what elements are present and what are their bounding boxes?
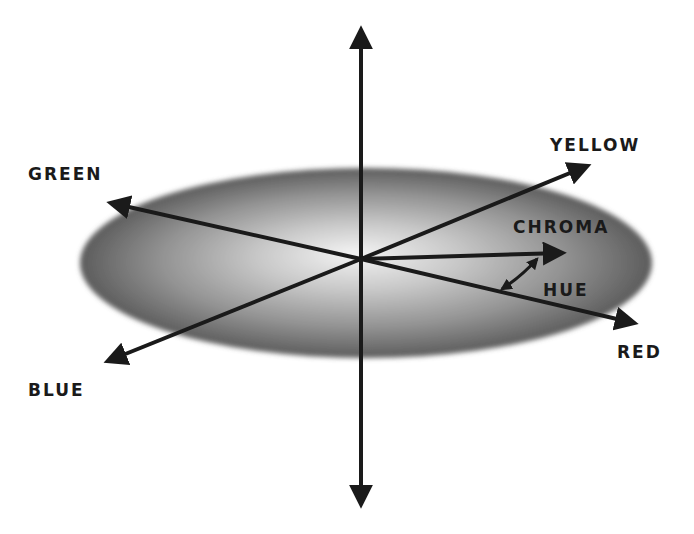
color-space-diagram: GREEN YELLOW CHROMA HUE RED BLUE [0, 0, 694, 534]
label-green: GREEN [28, 164, 103, 184]
label-red: RED [617, 342, 662, 362]
color-disc [80, 168, 652, 358]
label-hue: HUE [543, 280, 589, 300]
label-yellow: YELLOW [549, 135, 640, 155]
label-blue: BLUE [28, 380, 85, 400]
label-chroma: CHROMA [513, 217, 609, 237]
